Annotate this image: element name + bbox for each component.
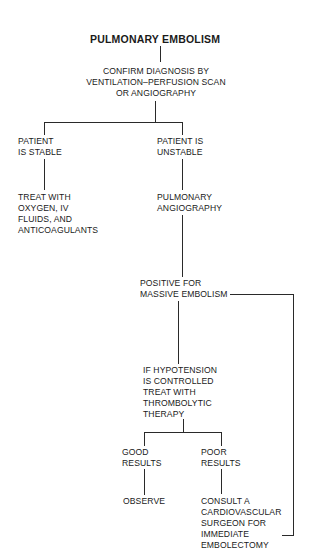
node-observe: OBSERVE <box>123 496 165 507</box>
connector-branch-horizontal <box>44 122 183 123</box>
connector-branch-poor <box>221 432 222 446</box>
connector-right-consult <box>282 535 294 536</box>
connector-title-confirm <box>160 46 161 62</box>
node-patient-unstable: PATIENT IS UNSTABLE <box>157 136 203 158</box>
connector-right-vertical <box>293 294 294 536</box>
node-good-results: GOOD RESULTS <box>122 447 162 469</box>
connector-positive-right <box>230 294 294 295</box>
node-consult-surgeon: CONSULT A CARDIOVASCULAR SURGEON FOR IMM… <box>201 496 282 550</box>
connector-unstable-angiography <box>182 159 183 190</box>
connector-thrombolytic-branch <box>183 419 184 432</box>
node-pulmonary-angiography: PULMONARY ANGIOGRAPHY <box>157 192 222 214</box>
node-confirm-diagnosis: CONFIRM DIAGNOSIS BY VENTILATION–PERFUSI… <box>86 66 226 99</box>
node-thrombolytic-therapy: IF HYPOTENSION IS CONTROLLED TREAT WITH … <box>143 365 217 420</box>
node-positive-massive-embolism: POSITIVE FOR MASSIVE EMBOLISM <box>140 278 228 300</box>
connector-results-horizontal <box>144 432 222 433</box>
node-patient-stable: PATIENT IS STABLE <box>18 136 62 158</box>
connector-branch-stable <box>44 122 45 135</box>
connector-confirm-branch <box>155 101 156 122</box>
connector-poor-consult <box>221 469 222 494</box>
connector-branch-good <box>144 432 145 446</box>
connector-stable-treat <box>44 159 45 190</box>
connector-positive-thrombolytic <box>178 301 179 364</box>
connector-branch-unstable <box>182 122 183 135</box>
connector-good-observe <box>144 469 145 495</box>
diagram-title: PULMONARY EMBOLISM <box>90 33 220 45</box>
connector-angiography-positive <box>182 215 183 277</box>
node-poor-results: POOR RESULTS <box>201 447 241 469</box>
node-treat-stable: TREAT WITH OXYGEN, IV FLUIDS, AND ANTICO… <box>18 192 98 236</box>
